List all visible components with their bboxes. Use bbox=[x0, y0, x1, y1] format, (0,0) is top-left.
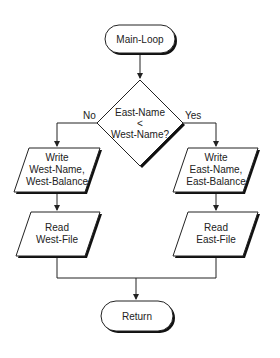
no-label: No bbox=[83, 110, 96, 121]
write-east-line-1: Write bbox=[204, 152, 228, 163]
decision-line-1: East-Name bbox=[115, 107, 165, 118]
read-east-io: Read East-File bbox=[173, 212, 260, 258]
decision-line-2: < bbox=[137, 118, 143, 129]
flowchart: Main-Loop East-Name < West-Name? No Yes … bbox=[0, 0, 280, 358]
decision-diamond: East-Name < West-Name? bbox=[97, 80, 185, 168]
start-terminator: Main-Loop bbox=[105, 25, 177, 55]
return-label: Return bbox=[122, 311, 152, 322]
write-east-io: Write East-Name, East-Balance bbox=[173, 148, 260, 194]
return-terminator: Return bbox=[101, 301, 175, 333]
edge-no bbox=[57, 123, 97, 146]
write-west-line-1: Write bbox=[45, 152, 69, 163]
start-label: Main-Loop bbox=[116, 34, 164, 45]
write-west-line-3: West-Balance bbox=[26, 176, 89, 187]
write-east-line-2: East-Name, bbox=[190, 164, 243, 175]
decision-line-3: West-Name? bbox=[111, 129, 170, 140]
edge-merge bbox=[57, 258, 216, 278]
read-east-line-2: East-File bbox=[196, 234, 236, 245]
yes-label: Yes bbox=[185, 110, 201, 121]
write-west-io: Write West-Name, West-Balance bbox=[14, 148, 102, 194]
write-east-line-3: East-Balance bbox=[186, 176, 246, 187]
write-west-line-2: West-Name, bbox=[29, 164, 84, 175]
read-east-line-1: Read bbox=[204, 222, 228, 233]
edge-yes bbox=[183, 123, 216, 146]
read-west-line-1: Read bbox=[45, 222, 69, 233]
read-west-line-2: West-File bbox=[36, 234, 78, 245]
read-west-io: Read West-File bbox=[16, 212, 102, 258]
